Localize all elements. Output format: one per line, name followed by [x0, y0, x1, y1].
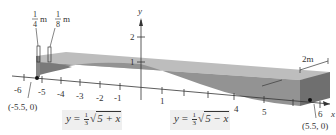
diagram-canvas: -6 -5 -4 -3 -2 -1 1 4 5 6 2 1 y x (-5.5,…: [0, 0, 336, 135]
formula-left: y = 13√5 + x: [66, 112, 121, 127]
leader-line: [28, 82, 31, 98]
x-axis-label: x: [330, 109, 335, 119]
point-label-left: (-5.5, 0): [8, 102, 37, 112]
x-tick-label: 6: [318, 109, 323, 119]
x-tick-label: 5: [262, 107, 267, 117]
svg-text:8: 8: [56, 20, 60, 29]
x-tick-label: 1: [160, 96, 165, 106]
formula-right: y = 13√5 − x: [174, 112, 229, 127]
eighth-label: 1 8 m: [55, 10, 70, 29]
svg-text:m: m: [40, 14, 47, 24]
y-tick-label: 1: [130, 57, 135, 67]
y-tick-label: 2: [130, 32, 135, 42]
point-left: [35, 76, 39, 80]
leader-line: [36, 28, 38, 46]
x-tick-label: -1: [114, 93, 122, 103]
x-tick-label: -4: [57, 89, 65, 99]
svg-text:4: 4: [33, 20, 37, 29]
x-axis-arrow: [323, 101, 330, 106]
svg-text:m: m: [63, 14, 70, 24]
beam-diagram: -6 -5 -4 -3 -2 -1 1 4 5 6 2 1 y x (-5.5,…: [0, 0, 336, 135]
x-tick-label: 4: [234, 104, 239, 114]
quarter-label: 1 4 m: [32, 10, 47, 29]
svg-text:1: 1: [33, 10, 37, 19]
beam-left-face: [36, 56, 40, 78]
leader-line: [314, 104, 316, 118]
x-tick-label: -2: [96, 93, 104, 103]
point-right: [308, 98, 312, 102]
x-tick-label: -5: [38, 87, 46, 97]
y-axis-arrow: [139, 18, 143, 26]
leader-line: [50, 28, 55, 47]
width-label: 2m: [302, 54, 314, 64]
y-axis-label: y: [137, 6, 142, 16]
point-label-right: (5.5, 0): [302, 121, 328, 131]
svg-text:1: 1: [56, 10, 60, 19]
x-tick-label: -6: [14, 85, 22, 95]
x-tick-label: -3: [76, 91, 84, 101]
